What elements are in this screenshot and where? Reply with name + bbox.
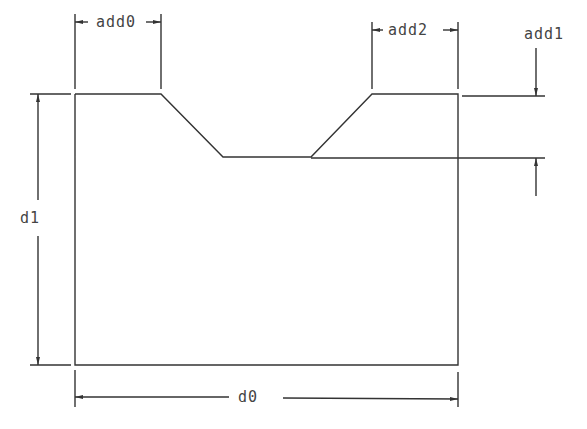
add2-label: add2 [388, 22, 428, 38]
d1-arrowhead-top [36, 94, 40, 102]
part-profile [75, 94, 458, 365]
add1-arrowhead-top [534, 88, 538, 96]
add0-label: add0 [96, 14, 136, 30]
add2-arrowhead-left [372, 28, 380, 32]
add2-arrowhead-right [450, 28, 458, 32]
add0-arrowhead-left [75, 20, 83, 24]
add1-arrowhead-bottom [534, 158, 538, 166]
add1-label: add1 [524, 26, 564, 42]
d0-label: d0 [238, 389, 258, 405]
d0-dimension-line-right [283, 398, 458, 399]
add0-arrowhead-right [153, 20, 161, 24]
d0-arrowhead-right [450, 397, 458, 401]
dimension-drawing [0, 0, 587, 429]
d0-arrowhead-left [75, 395, 83, 399]
d1-label: d1 [20, 210, 40, 226]
d1-arrowhead-bottom [36, 357, 40, 365]
